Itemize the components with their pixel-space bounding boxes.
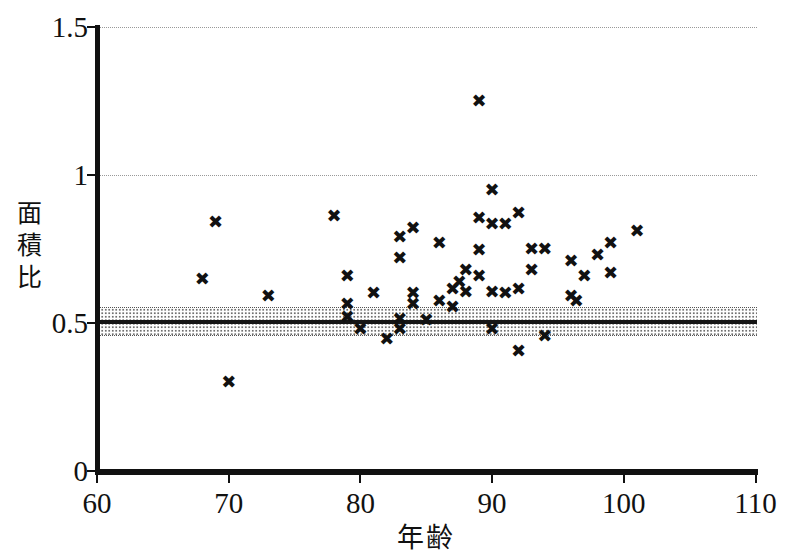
y-tick-label: 0.5 — [28, 309, 88, 338]
y-tick-mark — [87, 174, 96, 176]
x-tick-mark — [623, 475, 625, 483]
x-tick-label: 70 — [214, 489, 243, 518]
data-point-marker: ✖ — [353, 320, 368, 338]
data-point-marker: ✖ — [340, 267, 355, 285]
y-axis-line — [95, 25, 100, 475]
horizontal-gridline — [100, 175, 757, 176]
y-tick-label: 1.5 — [28, 13, 88, 42]
data-point-marker: ✖ — [524, 261, 539, 279]
data-point-marker: ✖ — [471, 92, 486, 110]
data-point-marker: ✖ — [485, 181, 500, 199]
data-point-marker: ✖ — [327, 207, 342, 225]
y-tick-mark — [87, 26, 96, 28]
data-point-marker: ✖ — [419, 311, 434, 329]
data-point-marker: ✖ — [603, 264, 618, 282]
x-tick-label: 80 — [346, 489, 375, 518]
data-point-marker: ✖ — [511, 342, 526, 360]
scatter-plot-figure: 面積比 年齢 00.511.560708090100110 ✖✖✖✖✖✖✖✖✖✖… — [0, 0, 792, 558]
x-tick-mark — [491, 475, 493, 483]
data-point-marker: ✖ — [629, 222, 644, 240]
x-tick-mark — [228, 475, 230, 483]
data-point-marker: ✖ — [485, 320, 500, 338]
x-axis-label: 年齢 — [397, 524, 455, 553]
data-point-marker: ✖ — [392, 320, 407, 338]
x-tick-label: 90 — [478, 489, 507, 518]
data-point-marker: ✖ — [511, 204, 526, 222]
data-point-marker: ✖ — [603, 234, 618, 252]
y-tick-label: 0 — [28, 457, 88, 486]
data-point-marker: ✖ — [195, 270, 210, 288]
x-tick-label: 60 — [83, 489, 112, 518]
data-point-marker: ✖ — [511, 280, 526, 298]
data-point-marker: ✖ — [406, 219, 421, 237]
data-point-marker: ✖ — [537, 327, 552, 345]
y-tick-label: 1 — [28, 161, 88, 190]
x-tick-label: 100 — [602, 489, 646, 518]
data-point-marker: ✖ — [208, 213, 223, 231]
x-tick-mark — [359, 475, 361, 483]
data-point-marker: ✖ — [432, 234, 447, 252]
x-tick-label: 110 — [734, 489, 776, 518]
y-tick-mark — [87, 470, 96, 472]
data-point-marker: ✖ — [577, 267, 592, 285]
data-point-marker: ✖ — [471, 241, 486, 259]
data-point-marker: ✖ — [569, 292, 584, 310]
x-axis-line — [95, 469, 758, 475]
data-point-marker: ✖ — [537, 240, 552, 258]
data-point-marker: ✖ — [366, 284, 381, 302]
y-tick-mark — [87, 322, 96, 324]
x-tick-mark — [96, 475, 98, 483]
data-point-marker: ✖ — [221, 373, 236, 391]
data-point-marker: ✖ — [261, 287, 276, 305]
y-axis-label: 面積比 — [12, 200, 42, 296]
x-tick-mark — [755, 475, 757, 483]
data-point-marker: ✖ — [392, 249, 407, 267]
horizontal-gridline — [100, 27, 757, 28]
